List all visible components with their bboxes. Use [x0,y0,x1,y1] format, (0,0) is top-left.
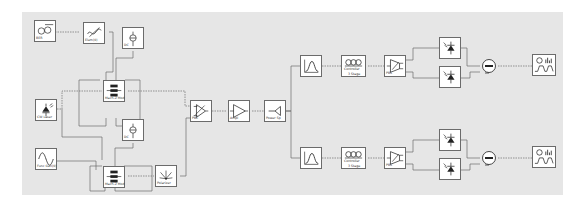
polarization-controller-bottom-block[interactable]: Controller 3 Stage [341,147,366,169]
photodiode-top-a-block[interactable] [439,37,461,59]
polarization-splitter-bottom-block[interactable]: PBS [384,147,406,169]
optical-filter-bottom-block[interactable] [300,147,322,169]
block-label: Elem(0) [85,39,97,42]
dc-source-top-block[interactable]: DC [122,27,144,49]
subtractor-top-icon[interactable] [480,57,498,75]
block-label: PBS [386,72,392,75]
mzm-modulator-top-block[interactable]: Mach-Z Mod [103,80,125,102]
photodiode-bottom-a-block[interactable] [439,129,461,151]
mzm-modulator-bottom-block[interactable]: Mach-Z Mod [103,166,125,188]
block-label: Func Gen(0) [37,165,56,168]
block-label: Controller [344,68,360,71]
polarization-controller-top-block[interactable]: Controller 3 Stage [341,55,366,77]
subtractor-bottom-icon[interactable] [480,149,498,167]
photodiode-icon [440,159,460,179]
polarizer-block[interactable]: Polarizer [155,165,177,187]
block-sublabel: 3 Stage [348,73,360,76]
optical-filter-icon [301,148,321,168]
block-label: Mach-Z Mod [105,97,125,100]
photodiode-icon [440,38,460,58]
prbs-generator-block[interactable]: BER [34,20,56,42]
signal-analyzer-icon [533,147,555,167]
block-label: DC [124,44,129,47]
block-label: Mach-Z Mod [105,183,125,186]
signal-analyzer-bottom-block[interactable] [532,146,556,168]
photodiode-icon [440,130,460,150]
dc-source-bottom-block[interactable]: DC [122,119,144,141]
polarization-combiner-block[interactable]: PBC [190,100,212,122]
block-label: BER [36,37,42,40]
function-generator-block[interactable]: Func Gen(0) [35,148,57,170]
amplifier-block[interactable]: Ampl [228,100,250,122]
optical-filter-icon [301,56,321,76]
cw-laser-block[interactable]: CW Laser [35,99,57,121]
block-label: DC [124,136,129,139]
polarization-splitter-top-block[interactable]: PBS [384,55,406,77]
wavelength-selector-block[interactable]: Elem(0) [83,22,105,44]
block-label: PBC [192,117,198,120]
block-sublabel: 3 Stage [348,165,360,168]
block-label: Power Sp [266,117,281,120]
power-splitter-block[interactable]: Power Sp [264,100,286,122]
photodiode-bottom-b-block[interactable] [439,158,461,180]
photodiode-top-b-block[interactable] [439,66,461,88]
block-label: Polarizer [157,182,171,185]
block-label: Ampl [230,117,238,120]
optical-filter-top-block[interactable] [300,55,322,77]
block-label: CW Laser [37,116,52,119]
block-label: PBS [386,164,392,167]
block-label: Controller [344,160,360,163]
signal-analyzer-top-block[interactable] [532,54,556,76]
signal-analyzer-icon [533,55,555,75]
photodiode-icon [440,67,460,87]
